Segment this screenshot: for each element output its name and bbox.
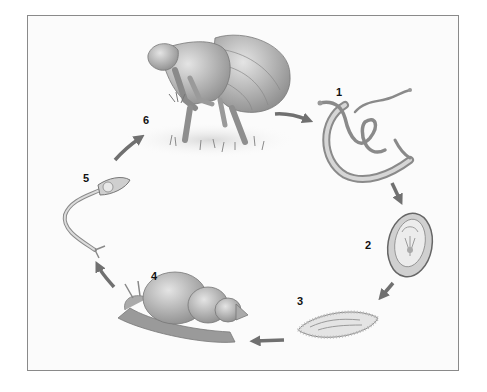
egg-icon — [383, 210, 437, 281]
arrow-1-to-2 — [392, 183, 400, 200]
arrow-2-to-3 — [382, 283, 393, 296]
stage-label-5: 5 — [83, 172, 89, 184]
miracidium-icon — [298, 312, 378, 337]
arrow-6-to-1 — [275, 114, 308, 120]
life-cycle-illustration — [0, 0, 487, 392]
stage-label-4: 4 — [151, 270, 157, 282]
arrow-3-to-4 — [255, 340, 284, 341]
adult-worms-icon — [318, 88, 413, 179]
stage-label-2: 2 — [365, 239, 371, 251]
snail-icon — [118, 272, 248, 342]
stage-label-6: 6 — [143, 114, 149, 126]
cercaria-icon — [65, 178, 130, 258]
arrow-4-to-5 — [98, 266, 114, 287]
stage-label-1: 1 — [336, 86, 342, 98]
human-figure-icon — [125, 35, 295, 158]
stage-label-3: 3 — [297, 295, 303, 307]
